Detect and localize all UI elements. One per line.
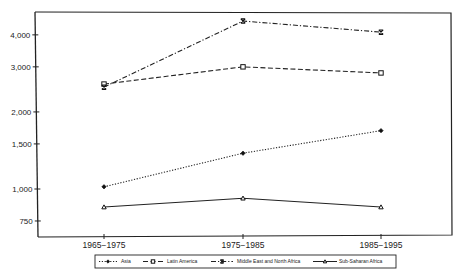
diamond-marker-icon (102, 185, 106, 189)
y-axis-line (35, 12, 38, 237)
series-sub-saharan-africa (102, 196, 383, 209)
y-tick-label: 1,500 (12, 140, 33, 149)
x-tick-label: 1975−1985 (222, 240, 265, 250)
series-lines (102, 19, 383, 209)
series-line (104, 21, 381, 87)
y-tick-label: 750 (19, 217, 33, 226)
square-marker-icon (151, 260, 154, 263)
line-chart: 7501,0001,5002,0003,0004,000 1965−197519… (0, 0, 458, 274)
triangle-marker-icon (241, 196, 245, 200)
triangle-marker-icon (379, 205, 383, 209)
series-asia (102, 128, 383, 189)
triangle-marker-icon (102, 205, 106, 209)
legend-label: Middle East and North Africa (237, 258, 301, 264)
square-marker-icon (241, 65, 245, 69)
plot-border (35, 12, 452, 237)
diamond-marker-icon (241, 151, 245, 155)
square-marker-icon (379, 71, 383, 75)
y-tick-label: 4,000 (10, 31, 31, 40)
legend-label: Latin America (167, 258, 198, 264)
legend-label: Asia (121, 258, 131, 264)
x-marker-icon (379, 30, 383, 34)
x-tick-label: 1965−1975 (83, 240, 126, 250)
series-line (104, 131, 381, 187)
diamond-marker-icon (379, 128, 383, 132)
plot-frame (35, 12, 452, 237)
y-tick-label: 1,000 (12, 185, 33, 194)
legend-label: Sub-Saharan Africa (339, 258, 383, 264)
legend: AsiaLatin AmericaMiddle East and North A… (95, 255, 396, 268)
x-tick-label: 1985−1995 (360, 240, 403, 250)
y-tick-label: 3,000 (11, 63, 32, 72)
y-tick-label: 2,000 (11, 108, 32, 117)
